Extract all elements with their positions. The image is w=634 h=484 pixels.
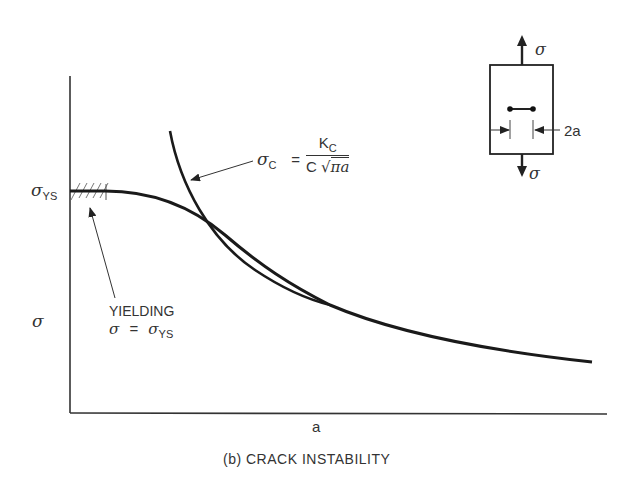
specimen-inset — [490, 35, 560, 177]
y-tick-symbol: σ — [31, 180, 43, 200]
y-axis-label: σ — [32, 311, 44, 331]
y-tick-subscript: YS — [43, 190, 58, 202]
fraction-numerator: KC — [306, 134, 349, 156]
x-axis — [70, 413, 607, 414]
inset-bottom-load-label: σ — [529, 164, 540, 183]
axes — [70, 76, 607, 414]
fraction-denominator: C √πa — [306, 156, 349, 176]
y-tick-sigma-ys: σYS — [31, 180, 57, 202]
yielding-arrow — [90, 208, 115, 298]
inset-crack-length-label: 2a — [564, 122, 581, 139]
yielding-label: YIELDING — [109, 303, 174, 319]
fracture-equation-fraction: KC C √πa — [306, 134, 349, 176]
fracture-equation-lhs: σC = — [257, 149, 300, 171]
yielding-equation: σ = σYS — [109, 320, 173, 340]
diagram-canvas — [0, 0, 634, 484]
x-axis-label: a — [312, 418, 320, 435]
fracture-equation-arrow — [191, 161, 253, 180]
inset-top-load-label: σ — [535, 40, 546, 59]
figure-caption: (b) CRACK INSTABILITY — [223, 451, 390, 467]
